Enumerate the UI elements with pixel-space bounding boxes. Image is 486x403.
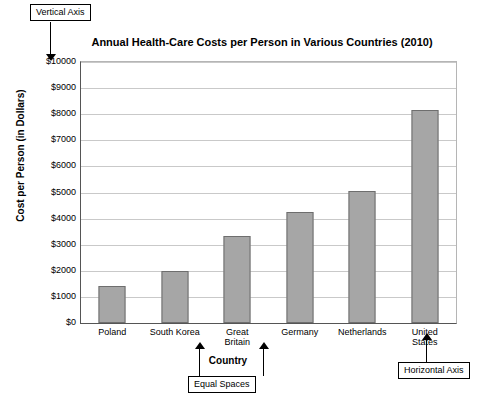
y-axis-tick-label: $4000 xyxy=(28,214,76,223)
x-axis-tick-label-line: Great xyxy=(206,327,269,337)
x-axis-tick-label-line: Germany xyxy=(269,327,332,337)
plot-area xyxy=(80,61,457,324)
bar-slot xyxy=(81,62,144,323)
x-axis-tick-label-line: Netherlands xyxy=(331,327,394,337)
y-axis-title: Cost per Person (in Dollars) xyxy=(15,66,26,246)
y-axis-tick-label: $3000 xyxy=(28,240,76,249)
bar[interactable] xyxy=(224,236,251,323)
bar-series xyxy=(81,62,456,323)
y-axis-tick-label: $5000 xyxy=(28,188,76,197)
y-axis-tick-label: $1000 xyxy=(28,292,76,301)
y-axis-tick-label: $8000 xyxy=(28,109,76,118)
bar-slot xyxy=(331,62,394,323)
callout-equal-spaces-arrow-stem-left xyxy=(199,349,200,376)
x-axis-tick-label-line: Poland xyxy=(81,327,144,337)
gridline xyxy=(81,323,456,324)
callout-equal-spaces-arrow-stem-right xyxy=(263,349,264,376)
y-axis-tick-label: $7000 xyxy=(28,135,76,144)
x-axis-tick-label: Poland xyxy=(81,327,144,337)
chart-figure: Annual Health-Care Costs per Person in V… xyxy=(0,0,486,403)
x-axis-tick-label: Netherlands xyxy=(331,327,394,337)
callout-equal-spaces: Equal Spaces xyxy=(188,376,256,393)
x-axis-tick-label-line: South Korea xyxy=(144,327,207,337)
callout-horizontal-axis-arrow-stem xyxy=(426,340,427,362)
x-axis-tick-label: Germany xyxy=(269,327,332,337)
callout-horizontal-axis-arrow-icon xyxy=(422,333,432,340)
callout-vertical-axis-arrow-stem xyxy=(50,22,51,56)
bar[interactable] xyxy=(286,212,313,323)
y-axis-tick-label: $6000 xyxy=(28,161,76,170)
bar[interactable] xyxy=(99,286,126,323)
callout-vertical-axis: Vertical Axis xyxy=(30,4,91,21)
y-axis-tick-labels: $0$1000$2000$3000$4000$5000$6000$7000$80… xyxy=(26,61,76,324)
callout-vertical-axis-arrow-icon xyxy=(46,54,56,61)
bar[interactable] xyxy=(349,191,376,323)
x-axis-tick-label: South Korea xyxy=(144,327,207,337)
callout-equal-spaces-arrow-icon-left xyxy=(195,342,205,349)
bar-slot xyxy=(394,62,457,323)
y-axis-tick-label: $0 xyxy=(28,318,76,327)
y-axis-tick-label: $2000 xyxy=(28,266,76,275)
callout-horizontal-axis: Horizontal Axis xyxy=(398,362,470,379)
bar-slot xyxy=(144,62,207,323)
x-axis-title: Country xyxy=(168,355,288,366)
callout-equal-spaces-arrow-icon-right xyxy=(259,342,269,349)
bar[interactable] xyxy=(411,110,438,323)
bar[interactable] xyxy=(161,271,188,323)
bar-slot xyxy=(206,62,269,323)
bar-slot xyxy=(269,62,332,323)
y-axis-tick-label: $9000 xyxy=(28,83,76,92)
chart-title: Annual Health-Care Costs per Person in V… xyxy=(62,36,462,48)
